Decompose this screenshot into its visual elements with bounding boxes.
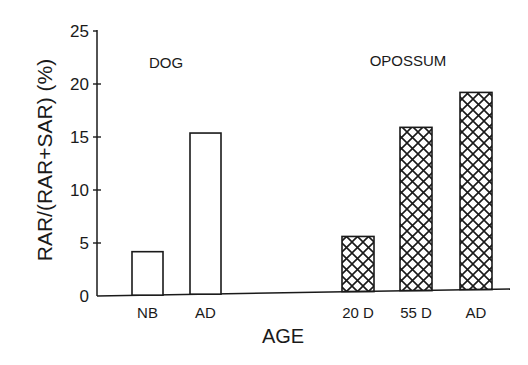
x-axis-label: AGE xyxy=(262,325,304,347)
bar-dog-nb xyxy=(132,252,163,295)
y-tick-label: 15 xyxy=(70,128,89,147)
bar-chart: 0510152025 RAR/(RAR+SAR) (%) DOG OPOSSUM… xyxy=(0,0,528,365)
y-axis-label: RAR/(RAR+SAR) (%) xyxy=(33,59,56,261)
group-label-dog: DOG xyxy=(149,54,183,71)
x-tick-label: NB xyxy=(137,304,158,321)
y-tick-label: 20 xyxy=(70,75,89,94)
x-tick-label: AD xyxy=(466,304,487,321)
y-tick-label: 0 xyxy=(80,287,89,306)
bar-dog-ad xyxy=(190,133,221,294)
x-tick-label: AD xyxy=(195,304,216,321)
y-tick-label: 5 xyxy=(80,234,89,253)
bar-opossum-20d xyxy=(342,236,374,291)
y-axis: 0510152025 xyxy=(70,22,101,306)
bars xyxy=(132,92,492,295)
bar-opossum-55d xyxy=(400,127,432,290)
y-tick-label: 10 xyxy=(70,181,89,200)
y-tick-label: 25 xyxy=(70,22,89,41)
x-tick-label: 20 D xyxy=(342,304,374,321)
bar-opossum-ad xyxy=(460,92,492,289)
x-tick-label: 55 D xyxy=(400,304,432,321)
x-tick-labels: NBAD20 D55 DAD xyxy=(137,304,487,321)
group-label-opossum: OPOSSUM xyxy=(370,52,447,69)
